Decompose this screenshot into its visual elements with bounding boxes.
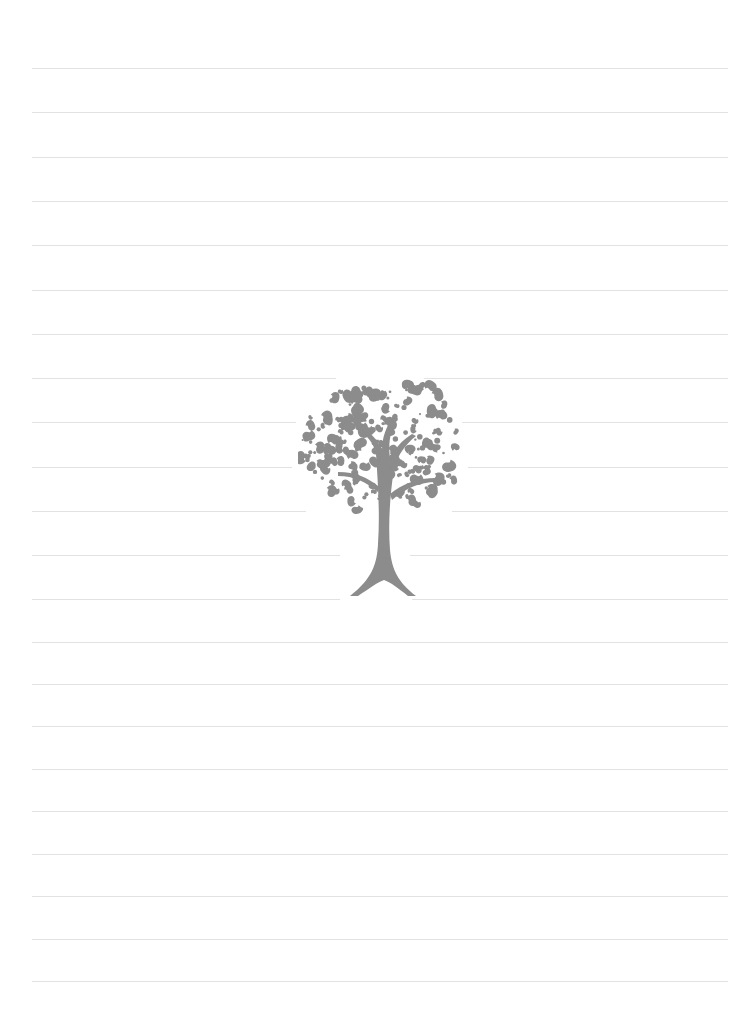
ruled-line xyxy=(32,769,728,770)
ruled-line xyxy=(32,245,728,246)
ruled-line-segment xyxy=(32,511,306,512)
ruled-line xyxy=(32,896,728,897)
ruled-line xyxy=(32,726,728,727)
ruled-line-segment xyxy=(32,599,340,600)
ruled-line xyxy=(32,811,728,812)
ruled-line-segment xyxy=(424,378,728,379)
ruled-line-segment xyxy=(452,511,728,512)
ruled-line-segment xyxy=(32,467,292,468)
ruled-line xyxy=(32,68,728,69)
ruled-line-segment xyxy=(32,555,340,556)
ruled-line xyxy=(32,157,728,158)
ruled-line xyxy=(32,112,728,113)
ruled-line-segment xyxy=(32,378,336,379)
notebook-page xyxy=(0,0,734,1035)
ruled-line xyxy=(32,939,728,940)
ruled-line xyxy=(32,854,728,855)
tree-icon xyxy=(298,374,466,600)
ruled-line-segment xyxy=(462,422,728,423)
ruled-line xyxy=(32,334,728,335)
ruled-line xyxy=(32,642,728,643)
ruled-line xyxy=(32,684,728,685)
ruled-line xyxy=(32,201,728,202)
ruled-line xyxy=(32,981,728,982)
ruled-line xyxy=(32,290,728,291)
ruled-line-segment xyxy=(468,467,728,468)
ruled-line-segment xyxy=(32,422,296,423)
